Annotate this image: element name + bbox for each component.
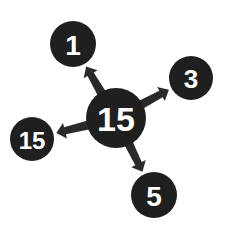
center-node-label: 15 (97, 100, 135, 138)
arrow-icon (124, 141, 145, 172)
center-node: 15 (86, 88, 146, 148)
node-label: 1 (65, 30, 81, 61)
arrow-icon (56, 120, 90, 138)
node-label: 5 (146, 181, 162, 212)
node-right: 3 (169, 56, 213, 100)
node-label: 3 (184, 64, 198, 94)
nodes: 15 1 3 15 5 (10, 21, 213, 218)
hub-spoke-diagram: 15 1 3 15 5 (0, 0, 227, 233)
node-top-left: 1 (50, 21, 96, 67)
node-bottom: 5 (131, 172, 177, 218)
node-label: 15 (19, 127, 46, 154)
node-left: 15 (10, 117, 54, 161)
